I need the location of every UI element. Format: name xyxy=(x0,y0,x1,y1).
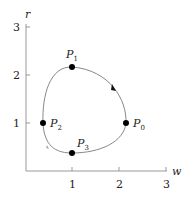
point-p0 xyxy=(123,120,129,126)
y-tick-label-1: 1 xyxy=(13,117,20,130)
phase-plane-diagram: 1 2 3 1 2 3 r w P0 P1 P2 P3 xyxy=(0,0,190,197)
x-tick-label-3: 3 xyxy=(163,178,170,191)
point-p2 xyxy=(40,120,46,126)
axes: 1 2 3 1 2 3 r w xyxy=(13,8,182,191)
y-tick-label-3: 3 xyxy=(13,21,20,34)
x-axis-label: w xyxy=(172,165,182,178)
y-tick-label-2: 2 xyxy=(13,69,20,82)
points: P0 P1 P2 P3 xyxy=(40,48,145,156)
direction-arrow-small-icon xyxy=(46,145,49,149)
point-p3 xyxy=(69,150,75,156)
point-p1 xyxy=(69,64,75,70)
orbit-curve xyxy=(43,67,126,153)
label-p0: P0 xyxy=(132,117,145,132)
label-p2: P2 xyxy=(49,117,62,132)
y-axis-label: r xyxy=(25,8,31,21)
x-tick-label-1: 1 xyxy=(69,178,76,191)
label-p3: P3 xyxy=(76,137,89,152)
label-p1: P1 xyxy=(65,48,78,63)
x-tick-label-2: 2 xyxy=(116,178,123,191)
